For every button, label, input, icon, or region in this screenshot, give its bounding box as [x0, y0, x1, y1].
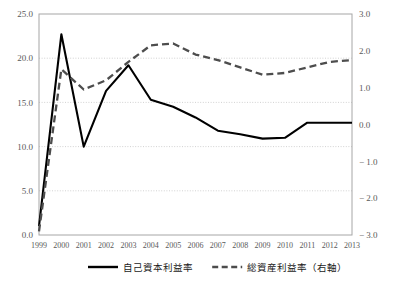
- series-line-1: [39, 43, 352, 231]
- x-axis-tick-2009: 2009: [255, 241, 271, 250]
- left-axis-tick-1: 5.0: [22, 186, 34, 196]
- right-axis-tick-0: − 3.0: [359, 230, 378, 240]
- chart-container: 0.05.010.015.020.025.0 − 3.0− 2.0− 1.00.…: [0, 0, 393, 281]
- x-axis-tick-labels: 1999200020012002200320042005200620072008…: [31, 241, 360, 250]
- right-axis-tick-6: 3.0: [359, 9, 371, 19]
- x-axis-tick-2013: 2013: [344, 241, 360, 250]
- left-axis-tick-labels: 0.05.010.015.020.025.0: [17, 9, 33, 240]
- x-axis-tick-2010: 2010: [277, 241, 293, 250]
- right-axis-tick-4: 1.0: [359, 83, 371, 93]
- x-axis-tick-2012: 2012: [322, 241, 338, 250]
- x-axis-tick-2011: 2011: [299, 241, 315, 250]
- dual-axis-line-chart: 0.05.010.015.020.025.0 − 3.0− 2.0− 1.00.…: [0, 0, 393, 281]
- legend-label-1: 総資産利益率（右軸）: [247, 262, 347, 273]
- left-axis-tick-4: 20.0: [17, 53, 33, 63]
- right-axis-tick-3: 0.0: [359, 120, 371, 130]
- x-axis-tick-2000: 2000: [53, 241, 69, 250]
- left-axis-tick-5: 25.0: [17, 9, 33, 19]
- legend-label-0: 自己資本利益率: [123, 262, 193, 273]
- right-axis-tick-2: − 1.0: [359, 157, 378, 167]
- chart-legend: 自己資本利益率総資産利益率（右軸）: [88, 262, 347, 273]
- x-axis-tick-2002: 2002: [98, 241, 114, 250]
- x-axis-tick-2006: 2006: [188, 241, 204, 250]
- right-axis-tick-labels: − 3.0− 2.0− 1.00.01.02.03.0: [359, 9, 378, 240]
- right-axis-tick-5: 2.0: [359, 46, 371, 56]
- left-axis-tick-3: 15.0: [17, 98, 33, 108]
- left-axis-tick-0: 0.0: [22, 230, 34, 240]
- x-axis-tick-2005: 2005: [165, 241, 181, 250]
- x-axis-tick-2004: 2004: [143, 241, 159, 250]
- left-axis-tick-2: 10.0: [17, 142, 33, 152]
- x-axis-tick-1999: 1999: [31, 241, 47, 250]
- series-line-0: [39, 34, 352, 226]
- right-axis-tick-1: − 2.0: [359, 193, 378, 203]
- x-axis-tick-2003: 2003: [120, 241, 136, 250]
- x-axis-tick-2001: 2001: [76, 241, 92, 250]
- x-axis-tick-2007: 2007: [210, 241, 226, 250]
- x-axis-tick-2008: 2008: [232, 241, 248, 250]
- series-layer: [39, 34, 352, 231]
